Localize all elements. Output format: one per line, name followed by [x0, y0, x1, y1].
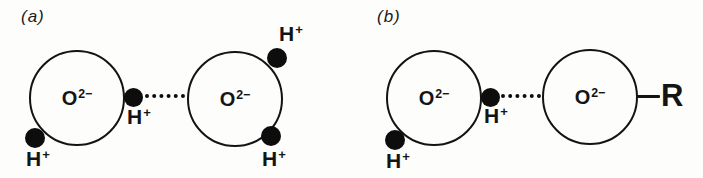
r-bond-line — [637, 95, 660, 98]
panel-b-label: (b) — [377, 7, 401, 27]
proton-label: H+ — [26, 148, 50, 169]
proton-dot — [385, 130, 405, 150]
panel-b-right-oxygen-circle: O2− — [542, 49, 638, 145]
oxygen-ion-label: O2− — [62, 88, 93, 108]
oxygen-ion-label: O2− — [220, 89, 251, 109]
proton-label: H+ — [386, 150, 410, 171]
figure-canvas: (a) O2− O2− H+ H+ H+ H+ (b) O2− O2− H+ H… — [0, 0, 703, 178]
panel-b-hydrogen-bond-dots — [501, 94, 541, 98]
proton-dot — [25, 128, 45, 148]
oxygen-ion-label: O2− — [419, 88, 450, 108]
r-substituent-label: R — [661, 80, 683, 111]
proton-label: H+ — [279, 23, 303, 44]
proton-dot — [267, 48, 287, 68]
panel-a-hydrogen-bond-dots — [145, 94, 185, 98]
oxygen-ion-label: O2− — [575, 87, 606, 107]
proton-label: H+ — [127, 106, 151, 127]
panel-a-label: (a) — [21, 7, 45, 27]
proton-dot — [261, 126, 281, 146]
proton-label: H+ — [262, 148, 286, 169]
proton-label: H+ — [484, 105, 508, 126]
